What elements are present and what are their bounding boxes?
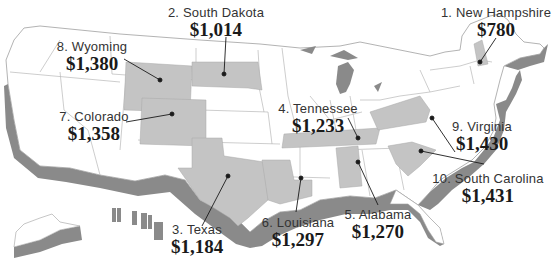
label-tennessee: 4. Tennessee $1,233 [278, 102, 358, 135]
label-south-carolina: 10. South Carolina $1,431 [432, 172, 543, 205]
state-value: $1,270 [344, 222, 411, 241]
label-louisiana: 6. Louisiana $1,297 [262, 216, 335, 249]
label-south-dakota: 2. South Dakota $1,014 [168, 6, 264, 39]
state-value: $1,380 [57, 54, 128, 73]
state-alabama [336, 146, 362, 188]
state-south-dakota [192, 62, 262, 90]
state-rank-name: 3. Texas [171, 223, 223, 236]
state-rank-name: 10. South Carolina [432, 172, 543, 185]
label-texas: 3. Texas $1,184 [171, 223, 223, 256]
us-map-infographic: 1. New Hampshire $780 2. South Dakota $1… [0, 0, 553, 274]
state-value: $1,014 [168, 20, 264, 39]
state-value: $1,233 [278, 116, 358, 135]
state-rank-name: 4. Tennessee [278, 102, 358, 115]
state-value: $1,358 [59, 124, 128, 143]
label-colorado: 7. Colorado $1,358 [59, 110, 128, 143]
state-rank-name: 7. Colorado [59, 110, 128, 123]
label-wyoming: 8. Wyoming $1,380 [57, 40, 128, 73]
state-rank-name: 2. South Dakota [168, 6, 264, 19]
label-alabama: 5. Alabama $1,270 [344, 208, 411, 241]
state-value: $1,431 [432, 186, 543, 205]
state-rank-name: 1. New Hampshire [441, 6, 551, 19]
state-rank-name: 8. Wyoming [57, 40, 128, 53]
state-rank-name: 6. Louisiana [262, 216, 335, 229]
label-virginia: 9. Virginia $1,430 [452, 120, 512, 153]
label-new-hampshire: 1. New Hampshire $780 [441, 6, 551, 39]
state-value: $1,184 [171, 237, 223, 256]
state-value: $780 [441, 20, 551, 39]
state-rank-name: 5. Alabama [344, 208, 411, 221]
state-rank-name: 9. Virginia [452, 120, 512, 133]
state-value: $1,430 [452, 134, 512, 153]
state-value: $1,297 [262, 230, 335, 249]
